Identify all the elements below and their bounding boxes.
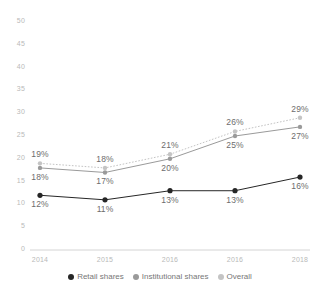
y-tick-20: 20: [9, 154, 25, 161]
legend-label: Institutional shares: [142, 272, 209, 281]
data-label-2-2: 21%: [155, 140, 185, 150]
x-tick-4: 2018: [278, 256, 320, 263]
marker-1-2: [168, 157, 172, 161]
marker-1-1: [103, 170, 107, 174]
data-label-0-0: 12%: [25, 199, 55, 209]
data-label-2-0: 19%: [25, 149, 55, 159]
y-tick-15: 15: [9, 177, 25, 184]
y-tick-10: 10: [9, 199, 25, 206]
data-label-2-1: 18%: [90, 154, 120, 164]
x-tick-1: 2015: [83, 256, 127, 263]
data-label-0-3: 13%: [220, 195, 250, 205]
legend-marker-icon: [133, 274, 139, 280]
legend-item-0[interactable]: Retail shares: [68, 272, 124, 281]
marker-1-0: [38, 166, 42, 170]
legend-item-2[interactable]: Overall: [218, 272, 252, 281]
y-tick-25: 25: [9, 131, 25, 138]
marker-2-0: [38, 161, 42, 165]
y-tick-30: 30: [9, 108, 25, 115]
chart-legend: Retail sharesInstitutional sharesOverall: [0, 272, 320, 281]
marker-1-3: [233, 134, 237, 138]
legend-label: Overall: [227, 272, 252, 281]
marker-2-1: [103, 166, 107, 170]
legend-marker-icon: [68, 274, 74, 280]
y-tick-35: 35: [9, 85, 25, 92]
data-label-2-4: 29%: [285, 104, 315, 114]
x-tick-3: 2016: [213, 256, 257, 263]
data-label-0-4: 16%: [285, 181, 315, 191]
data-label-1-3: 25%: [220, 140, 250, 150]
marker-1-4: [298, 125, 302, 129]
legend-marker-icon: [218, 274, 224, 280]
marker-0-3: [232, 188, 237, 193]
line-chart: 05101520253035404550 2014201520162016201…: [0, 0, 320, 286]
marker-0-2: [167, 188, 172, 193]
marker-0-0: [37, 193, 42, 198]
y-tick-50: 50: [9, 17, 25, 24]
marker-2-4: [298, 116, 302, 120]
data-label-1-1: 17%: [90, 176, 120, 186]
marker-2-3: [233, 129, 237, 133]
data-label-0-1: 11%: [90, 204, 120, 214]
legend-label: Retail shares: [77, 272, 124, 281]
legend-item-1[interactable]: Institutional shares: [133, 272, 209, 281]
y-tick-40: 40: [9, 63, 25, 70]
x-tick-2: 2016: [148, 256, 192, 263]
marker-0-1: [102, 197, 107, 202]
data-label-1-4: 27%: [285, 131, 315, 141]
y-tick-5: 5: [9, 222, 25, 229]
data-label-1-0: 18%: [25, 172, 55, 182]
x-tick-0: 2014: [18, 256, 62, 263]
data-label-0-2: 13%: [155, 195, 185, 205]
series-markers: [37, 116, 302, 203]
marker-2-2: [168, 152, 172, 156]
data-label-2-3: 26%: [220, 117, 250, 127]
marker-0-4: [297, 174, 302, 179]
y-tick-0: 0: [9, 245, 25, 252]
y-tick-45: 45: [9, 40, 25, 47]
data-label-1-2: 20%: [155, 163, 185, 173]
